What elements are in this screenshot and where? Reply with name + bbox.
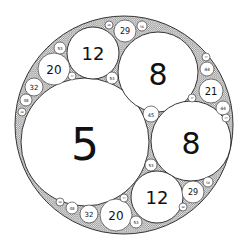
curvature-label: 53 [148,163,154,168]
curvature-label: 77 [224,117,228,120]
curvature-label: 21 [205,86,218,97]
curvature-label: 45 [148,112,154,118]
curvature-label: 53 [57,46,63,51]
circle-curvature-77: 77 [188,94,196,102]
circle-curvature-48: 48 [20,94,32,106]
curvature-label: 29 [188,188,198,197]
circle-curvature-53: 53 [130,216,142,228]
circle-curvature-29: 29 [114,20,136,42]
curvature-label: 56 [140,25,144,29]
circle-curvature-68: 68 [18,108,26,116]
curvature-label: 20 [108,209,123,223]
circle-curvature-8: 8 [118,32,198,112]
curvature-label: 53 [133,220,139,225]
curvature-label: 29 [120,27,130,36]
circle-curvature-68: 68 [105,21,113,29]
curvature-label: 48 [69,206,75,211]
curvature-label: 44 [204,67,210,72]
curvature-label: 8 [181,126,200,161]
curvature-label: 32 [30,84,39,92]
circle-curvature-56: 56 [203,177,213,187]
curvature-label: 5 [71,119,99,170]
curvature-label: 44 [220,106,226,111]
curvature-label: 77 [122,197,126,200]
curvature-label: 8 [148,57,167,92]
circle-curvature-77: 77 [202,53,210,61]
circle-curvature-68: 68 [56,198,64,206]
circle-curvature-53: 53 [54,42,66,54]
curvature-label: 20 [46,63,61,77]
circle-curvature-45: 45 [143,106,159,122]
circle-curvature-53: 53 [145,159,157,171]
curvature-label: 48 [23,98,29,103]
circle-curvature-12: 12 [67,27,119,79]
curvature-label: 56 [206,181,210,185]
curvature-label: 68 [58,201,62,204]
circle-curvature-20: 20 [100,199,132,231]
curvature-label: 77 [204,56,208,59]
curvature-label: 77 [190,97,194,100]
circle-curvature-53: 53 [106,72,118,84]
curvature-label: 68 [20,111,24,114]
circle-curvature-29: 29 [182,181,204,203]
curvature-label: 12 [82,43,105,64]
circle-curvature-44: 44 [216,101,230,115]
circle-curvature-32: 32 [25,78,43,96]
circle-curvature-20: 20 [38,53,70,85]
circle-curvature-48: 48 [66,202,78,214]
circle-curvature-77: 77 [120,194,128,202]
curvature-label: 53 [109,76,115,81]
curvature-label: 68 [107,24,111,27]
curvature-label: 12 [146,187,169,208]
circle-curvature-32: 32 [80,205,98,223]
circle-curvature-77: 77 [68,72,76,80]
circle-curvature-44: 44 [200,62,214,76]
circle-curvature-56: 56 [137,21,147,31]
circle-curvature-12: 12 [131,171,183,223]
circle-curvature-77: 77 [222,114,230,122]
curvature-label: 68 [181,206,185,209]
curvature-label: 77 [70,75,74,78]
curvature-label: 32 [85,211,94,219]
apollonian-gasket-diagram: 5881212202021292932324544445353535348485… [0,0,248,246]
circle-curvature-21: 21 [199,79,223,103]
circle-curvature-68: 68 [179,203,187,211]
